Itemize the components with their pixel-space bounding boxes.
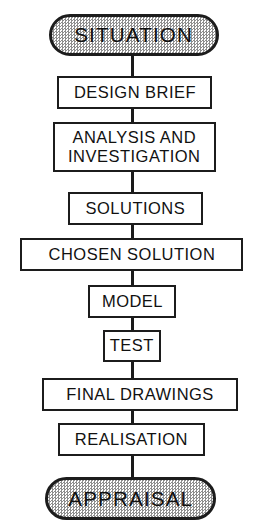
node-label-situation: SITUATION <box>75 23 194 47</box>
connector-realisation-to-appraisal <box>131 454 134 479</box>
node-label-chosen-solution: CHOSEN SOLUTION <box>48 246 215 264</box>
node-realisation: REALISATION <box>58 423 205 456</box>
connector-test-to-final-drawings <box>131 360 134 380</box>
node-design-brief: DESIGN BRIEF <box>57 76 212 109</box>
node-label-model: MODEL <box>101 293 162 311</box>
node-chosen-solution: CHOSEN SOLUTION <box>20 238 243 271</box>
design-process-flowchart: SITUATIONDESIGN BRIEFANALYSIS AND INVEST… <box>0 0 259 532</box>
connector-situation-to-design-brief <box>131 54 134 78</box>
node-test: TEST <box>103 330 161 362</box>
node-label-analysis-and-investigation: ANALYSIS AND INVESTIGATION <box>68 128 200 166</box>
node-label-design-brief: DESIGN BRIEF <box>73 84 195 102</box>
node-label-final-drawings: FINAL DRAWINGS <box>66 386 214 404</box>
node-analysis-and-investigation: ANALYSIS AND INVESTIGATION <box>53 122 216 172</box>
node-appraisal: APPRAISAL <box>45 477 216 520</box>
node-label-solutions: SOLUTIONS <box>86 200 186 218</box>
node-label-realisation: REALISATION <box>75 431 188 449</box>
node-situation: SITUATION <box>49 14 219 56</box>
node-model: MODEL <box>88 285 176 318</box>
node-solutions: SOLUTIONS <box>68 192 203 225</box>
connector-analysis-to-solutions <box>131 170 134 194</box>
node-label-test: TEST <box>110 337 154 355</box>
node-label-appraisal: APPRAISAL <box>68 487 193 511</box>
node-final-drawings: FINAL DRAWINGS <box>42 378 238 411</box>
